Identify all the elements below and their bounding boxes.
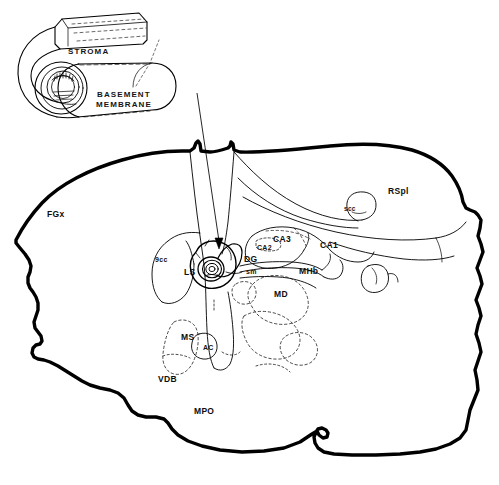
- brain-label-mhb: MHb: [299, 267, 318, 276]
- brain-label-ca3: CA3: [273, 235, 291, 244]
- inset-label-basement-membrane-line1: BASEMENT: [97, 91, 151, 99]
- brain-label-fcx: FGx: [47, 210, 64, 219]
- brain-label-rspl: RSpl: [388, 187, 409, 196]
- inset-label-stroma: STROMA: [68, 48, 109, 56]
- brain-label-ca2: CA2: [257, 244, 272, 251]
- brain-label-md: MD: [274, 290, 288, 299]
- figure-root: STROMA BASEMENT MEMBRANE FGx 9cc LS DG C…: [0, 0, 499, 485]
- brain-label-ac: AC: [203, 344, 214, 351]
- brain-label-mpo: MPO: [194, 407, 214, 416]
- brain-label-sm: sm: [246, 268, 257, 275]
- brain-label-dg: DG: [244, 255, 257, 264]
- brain-label-vdb: VDB: [158, 375, 177, 384]
- brain-label-ls: LS: [184, 268, 195, 277]
- brain-label-gcc: 9cc: [155, 256, 168, 263]
- brain-label-scc: scc: [344, 206, 356, 213]
- figure-artwork: [0, 0, 499, 485]
- brain-label-ca1: CA1: [320, 241, 338, 250]
- figure-background: [0, 0, 499, 485]
- brain-label-ms: MS: [181, 333, 194, 342]
- inset-label-basement-membrane-line2: MEMBRANE: [96, 101, 152, 109]
